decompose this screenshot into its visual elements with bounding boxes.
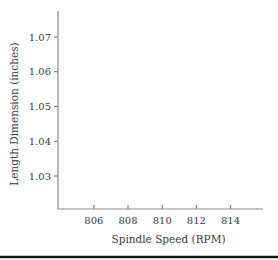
x-tick-label: 808 xyxy=(118,215,137,226)
x-tick-label: 812 xyxy=(187,215,206,226)
y-tick-label: 1.03 xyxy=(29,171,51,182)
y-tick-label: 1.04 xyxy=(29,136,51,147)
y-tick-label: 1.06 xyxy=(29,66,51,77)
y-tick-label: 1.05 xyxy=(29,101,51,112)
x-axis-label: Spindle Speed (RPM) xyxy=(112,233,226,245)
chart: 1.031.041.051.061.07 806808810812814 Spi… xyxy=(0,0,278,260)
x-tick-label: 806 xyxy=(84,215,103,226)
x-tick-label: 814 xyxy=(221,215,240,226)
y-axis-label: Length Dimension (inches) xyxy=(8,42,20,185)
x-axis-ticks: 806808810812814 xyxy=(84,205,240,226)
x-tick-label: 810 xyxy=(153,215,172,226)
y-tick-label: 1.07 xyxy=(29,32,51,43)
y-axis-ticks: 1.031.041.051.061.07 xyxy=(29,32,58,182)
